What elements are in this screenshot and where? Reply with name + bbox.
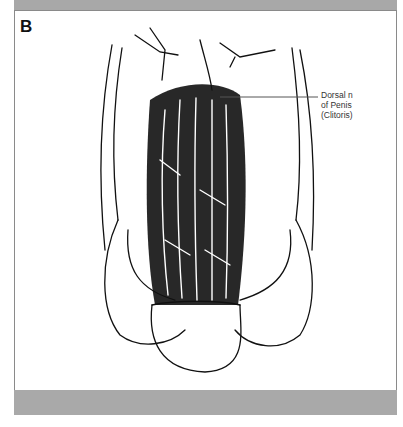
dorsal-nerve-callout: Dorsal n of Penis (Clitoris) (321, 90, 353, 120)
callout-line-3: (Clitoris) (321, 110, 353, 120)
anatomical-illustration (0, 0, 403, 427)
bottom-gray-band (14, 390, 397, 415)
callout-line-2: of Penis (321, 100, 353, 110)
callout-line-1: Dorsal n (321, 90, 353, 100)
